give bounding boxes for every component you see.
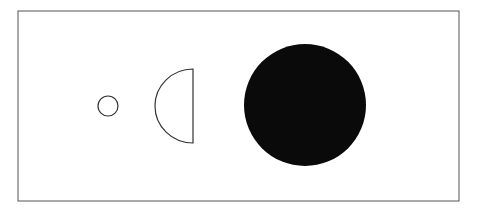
diagram-canvas — [0, 0, 482, 211]
diagram-frame — [18, 11, 459, 201]
large-filled-circle-shape — [244, 44, 366, 166]
